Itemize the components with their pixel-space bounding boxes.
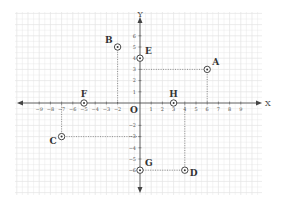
- x-tick-label: −3: [103, 106, 110, 112]
- point-center: [61, 136, 63, 138]
- point-h: H: [169, 89, 178, 106]
- x-tick-label: 2: [161, 106, 164, 112]
- point-label: G: [145, 158, 153, 168]
- point-a: A: [204, 57, 220, 72]
- y-tick-label: −6: [129, 167, 136, 173]
- y-axis-label: Y: [137, 10, 144, 19]
- point-center: [184, 169, 186, 171]
- y-tick-label: 5: [133, 44, 136, 50]
- x-tick-label: 5: [194, 106, 197, 112]
- x-axis-label: X: [265, 99, 271, 108]
- x-axis-arrow-left-icon: [17, 101, 23, 106]
- x-tick-label: 3: [172, 106, 175, 112]
- y-axis-arrow-down-icon: [138, 187, 143, 193]
- x-tick-label: −7: [58, 106, 65, 112]
- point-label: D: [190, 168, 198, 178]
- x-tick-label: −5: [80, 106, 87, 112]
- point-center: [83, 102, 85, 104]
- y-tick-label: −2: [129, 122, 136, 128]
- coordinate-plane: X Y O −9−8−7−6−5−4−3−2123456789654321−2−…: [0, 0, 282, 205]
- point-g: G: [137, 158, 153, 173]
- y-tick-label: −5: [129, 156, 136, 162]
- point-center: [117, 46, 119, 48]
- point-label: A: [211, 57, 220, 67]
- axes: X Y O: [17, 10, 271, 193]
- x-tick-label: 6: [206, 106, 209, 112]
- x-tick-label: −6: [69, 106, 76, 112]
- point-label: F: [81, 89, 88, 99]
- x-tick-label: 9: [239, 106, 242, 112]
- y-tick-label: 4: [133, 55, 136, 61]
- point-center: [206, 68, 208, 70]
- point-label: C: [49, 136, 56, 146]
- y-tick-label: 1: [133, 89, 136, 95]
- point-center: [173, 102, 175, 104]
- point-label: H: [169, 89, 178, 99]
- point-e: E: [137, 46, 152, 61]
- x-tick-label: 4: [183, 106, 186, 112]
- point-c: C: [49, 133, 64, 145]
- y-tick-label: −4: [129, 145, 136, 151]
- x-axis-arrow-right-icon: [256, 101, 262, 106]
- x-tick-label: −2: [114, 106, 121, 112]
- x-tick-label: 8: [228, 106, 231, 112]
- y-tick-label: −3: [129, 133, 136, 139]
- y-tick-label: 3: [133, 66, 136, 72]
- origin-label: O: [130, 105, 138, 115]
- x-tick-label: 7: [217, 106, 220, 112]
- x-tick-label: −4: [92, 106, 99, 112]
- point-label: E: [145, 46, 152, 56]
- x-tick-label: 1: [150, 106, 153, 112]
- point-center: [139, 169, 141, 171]
- x-tick-label: −9: [36, 106, 43, 112]
- point-b: B: [105, 35, 121, 50]
- point-d: D: [182, 167, 198, 178]
- y-tick-label: 6: [133, 33, 136, 39]
- point-center: [139, 57, 141, 59]
- y-tick-label: 2: [133, 77, 136, 83]
- point-label: B: [105, 35, 113, 45]
- x-tick-label: −8: [47, 106, 54, 112]
- point-f: F: [81, 89, 88, 106]
